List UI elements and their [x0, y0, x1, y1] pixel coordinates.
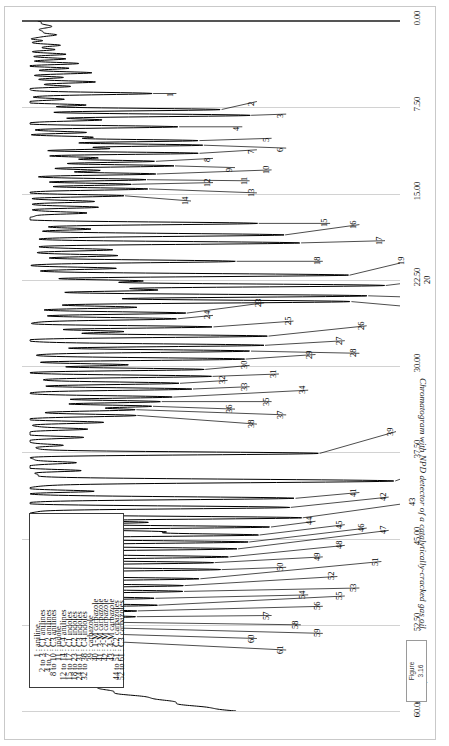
- peak-label-34: 34: [299, 386, 307, 394]
- peak-leader: [157, 170, 272, 174]
- peak-leader: [184, 588, 359, 591]
- peak-leader: [132, 183, 213, 185]
- axis-tick-label: 30.00: [412, 346, 422, 380]
- peak-label-46: 46: [358, 524, 366, 532]
- peak-label-4: 4: [233, 127, 241, 131]
- legend-box: 1:aniline2 to 3:C1 anilines4 to 7:C2 ani…: [29, 513, 124, 688]
- peak-label-6: 6: [277, 148, 285, 152]
- peak-leader: [153, 406, 235, 409]
- peak-label-53: 53: [350, 584, 358, 592]
- peak-label-23: 23: [255, 298, 263, 306]
- peak-leader: [149, 189, 257, 193]
- peak-leader: [350, 261, 401, 275]
- peak-leader: [199, 138, 271, 140]
- peak-leader: [137, 415, 257, 424]
- peak-label-29: 29: [306, 350, 314, 358]
- legend-peak-range: 52 to 61: [117, 653, 126, 683]
- peak-label-12: 12: [204, 178, 212, 186]
- peak-label-3: 3: [277, 114, 285, 118]
- peak-leader: [269, 326, 367, 336]
- peak-leader: [238, 530, 389, 549]
- peak-leader: [204, 145, 286, 148]
- peak-label-47: 47: [380, 526, 388, 534]
- legend-compound-name: C3 carbazoles: [117, 600, 126, 647]
- peak-leader: [147, 180, 250, 181]
- peak-label-20: 20: [424, 275, 432, 283]
- peak-leader: [386, 280, 400, 286]
- peak-leader: [368, 296, 400, 299]
- peak-leader: [301, 241, 385, 243]
- peak-leader: [187, 303, 265, 313]
- peak-label-35: 35: [263, 397, 271, 405]
- peak-label-61: 61: [277, 646, 285, 654]
- peak-label-31: 31: [270, 370, 278, 378]
- peak-leader: [214, 321, 294, 327]
- peak-label-10: 10: [263, 166, 271, 174]
- peak-label-24: 24: [204, 311, 212, 319]
- peak-label-43: 43: [409, 497, 417, 505]
- peak-leader: [136, 410, 286, 415]
- peak-leader: [395, 451, 400, 481]
- peak-label-50: 50: [277, 563, 285, 571]
- peak-leader: [173, 390, 308, 397]
- peak-label-55: 55: [336, 592, 344, 600]
- peak-label-58: 58: [292, 620, 300, 628]
- peak-label-19: 19: [398, 257, 406, 265]
- peak-label-32: 32: [219, 376, 227, 384]
- legend-colon: :: [117, 647, 126, 653]
- figure-num: 3.16: [416, 641, 425, 701]
- peak-label-27: 27: [336, 336, 344, 344]
- peak-label-42: 42: [380, 493, 388, 501]
- peak-label-30: 30: [241, 361, 249, 369]
- peak-label-49: 49: [314, 553, 322, 561]
- peak-leader: [138, 606, 323, 611]
- axis-tick-label: 7.50: [412, 87, 422, 121]
- peak-label-2: 2: [248, 101, 256, 105]
- peak-leader: [230, 545, 345, 557]
- peak-leader: [260, 525, 345, 535]
- peak-label-1: 1: [167, 93, 175, 97]
- peak-label-28: 28: [350, 349, 358, 357]
- peak-label-25: 25: [285, 317, 293, 325]
- peak-label-38: 38: [248, 420, 256, 428]
- peak-label-11: 11: [241, 177, 249, 185]
- peak-label-51: 51: [372, 557, 380, 565]
- peak-label-44: 44: [306, 517, 314, 525]
- peak-label-18: 18: [314, 257, 322, 265]
- peak-label-52: 52: [328, 572, 336, 580]
- peak-label-41: 41: [350, 488, 358, 496]
- peak-label-57: 57: [263, 611, 271, 619]
- legend-rows: 1:aniline2 to 3:C1 anilines4 to 7:C2 ani…: [30, 514, 123, 687]
- figure-number-box: Figure 3.16: [406, 640, 427, 702]
- peak-label-17: 17: [376, 236, 384, 244]
- peak-leader: [291, 497, 389, 507]
- peak-label-15: 15: [321, 219, 329, 227]
- peak-leader: [303, 502, 400, 518]
- peak-label-60: 60: [248, 634, 256, 642]
- peak-leader: [122, 622, 301, 624]
- figure-number-text: Figure 3.16: [407, 641, 426, 701]
- axis-tick-label: 22.50: [412, 260, 422, 294]
- peak-label-26: 26: [358, 321, 366, 329]
- peak-label-33: 33: [241, 382, 249, 390]
- peak-leader: [200, 562, 381, 579]
- peak-label-59: 59: [314, 629, 322, 637]
- peak-leader: [351, 302, 400, 312]
- peak-leader: [155, 595, 308, 598]
- peak-leader: [215, 557, 323, 563]
- peak-label-16: 16: [350, 220, 358, 228]
- peak-label-36: 36: [226, 405, 234, 413]
- figure-page: 0.007.5015.0022.5030.0037.5045.0052.5060…: [0, 0, 449, 746]
- peak-label-7: 7: [248, 150, 256, 154]
- axis-tick-label: 0.00: [412, 1, 422, 35]
- peak-label-9: 9: [226, 167, 234, 171]
- peak-label-48: 48: [336, 541, 344, 549]
- legend-row: 52 to 61:C3 carbazoles: [117, 518, 126, 683]
- peak-leader: [320, 432, 396, 454]
- gridline: [22, 711, 400, 712]
- peak-label-13: 13: [248, 189, 256, 197]
- axis-tick-label: 15.00: [412, 174, 422, 208]
- peak-label-56: 56: [314, 602, 322, 610]
- peak-leader: [137, 616, 272, 617]
- peak-leader: [265, 341, 345, 346]
